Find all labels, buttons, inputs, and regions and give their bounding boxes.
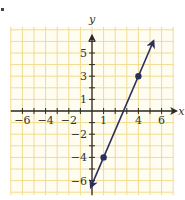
- x-tick-label: 4: [135, 114, 142, 127]
- y-tick-label: 1: [80, 93, 87, 106]
- data-point: [135, 73, 141, 79]
- x-tick-label: −2: [61, 114, 77, 127]
- x-tick-label: −4: [37, 114, 53, 127]
- y-axis-label: y: [88, 13, 96, 26]
- x-tick-label: 6: [158, 114, 165, 127]
- x-axis-label: x: [178, 105, 185, 118]
- data-point: [100, 154, 106, 160]
- y-tick-label: −4: [71, 151, 87, 164]
- x-tick-label: 1: [100, 114, 107, 127]
- y-tick-label: 3: [80, 70, 87, 83]
- y-tick-label: −2: [71, 128, 87, 141]
- coordinate-plane: −6−4−2146531−2−4−6xy: [0, 0, 185, 200]
- x-tick-label: −6: [14, 114, 30, 127]
- y-tick-label: 5: [80, 47, 87, 60]
- y-tick-label: −6: [71, 175, 87, 188]
